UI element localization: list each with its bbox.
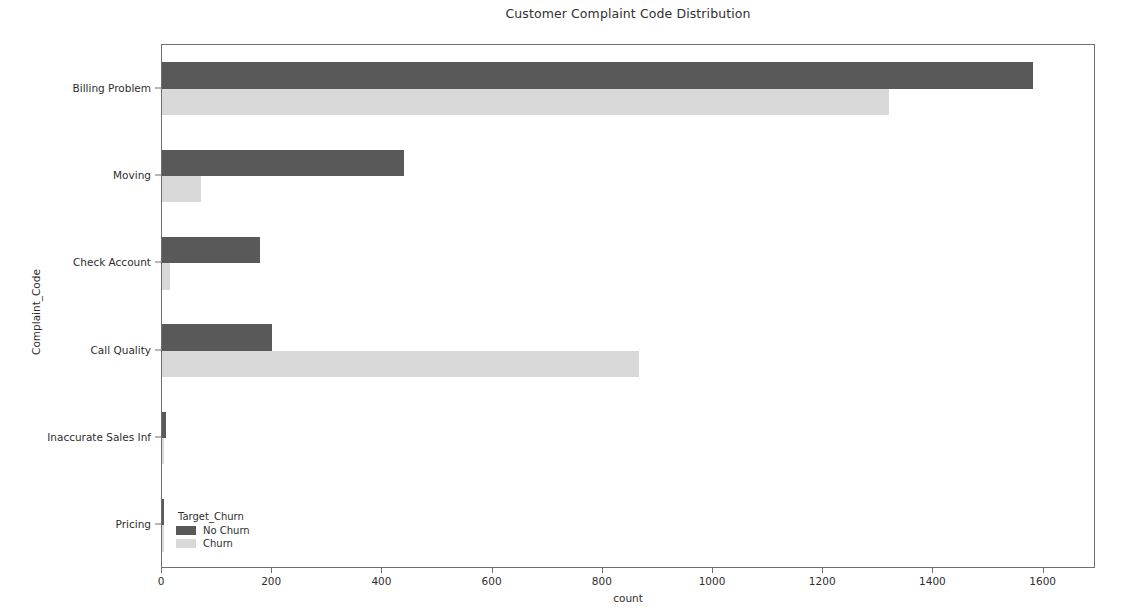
x-tick-mark [932,568,933,573]
bar-billing-problem-no-churn [162,62,1033,88]
y-axis-title: Complaint_Code [30,212,42,412]
legend-swatch-no-churn [176,526,196,535]
x-tick-label-600: 600 [462,575,522,587]
x-tick-label-400: 400 [351,575,411,587]
legend-item-churn[interactable]: Churn [176,538,250,549]
y-tick-mark [155,262,161,263]
plot-area [161,44,1095,568]
x-tick-label-1600: 1600 [1013,575,1073,587]
bar-pricing-churn [162,525,164,551]
x-tick-mark [161,568,162,573]
bar-call-quality-no-churn [162,324,272,350]
y-tick-label-moving: Moving [21,169,151,181]
x-tick-mark [822,568,823,573]
bar-billing-problem-churn [162,89,889,115]
bars-container [162,45,1094,567]
y-tick-mark [155,437,161,438]
y-tick-label-billing-problem: Billing Problem [21,82,151,94]
x-tick-mark [271,568,272,573]
x-tick-mark [602,568,603,573]
x-tick-label-800: 800 [572,575,632,587]
y-tick-mark [155,87,161,88]
x-axis-title: count [161,592,1095,604]
bar-pricing-no-churn [162,499,164,525]
y-tick-mark [155,349,161,350]
x-tick-mark [492,568,493,573]
x-tick-mark [381,568,382,573]
legend-item-no-churn[interactable]: No Churn [176,525,250,536]
bar-check-account-churn [162,263,170,289]
x-tick-mark [1043,568,1044,573]
bar-inaccurate-sales-inf-no-churn [162,412,166,438]
y-tick-mark [155,175,161,176]
x-tick-label-1400: 1400 [902,575,962,587]
y-tick-mark [155,524,161,525]
bar-moving-churn [162,176,201,202]
matplotlib-figure: Customer Complaint Code Distribution Bil… [0,0,1135,616]
x-tick-label-1200: 1200 [792,575,852,587]
legend-swatch-churn [176,539,196,548]
bar-inaccurate-sales-inf-churn [162,438,164,464]
y-tick-label-inaccurate-sales-inf: Inaccurate Sales Inf [21,431,151,443]
x-tick-label-0: 0 [131,575,191,587]
x-tick-label-200: 200 [241,575,301,587]
legend-title: Target_Churn [178,511,250,522]
x-tick-mark [712,568,713,573]
bar-check-account-no-churn [162,237,260,263]
legend-label-churn: Churn [203,538,233,549]
bar-moving-no-churn [162,150,404,176]
chart-title: Customer Complaint Code Distribution [161,6,1095,21]
x-tick-label-1000: 1000 [682,575,742,587]
bar-call-quality-churn [162,351,639,377]
y-tick-label-pricing: Pricing [21,518,151,530]
legend: Target_Churn No Churn Churn [172,509,256,555]
legend-label-no-churn: No Churn [203,525,250,536]
